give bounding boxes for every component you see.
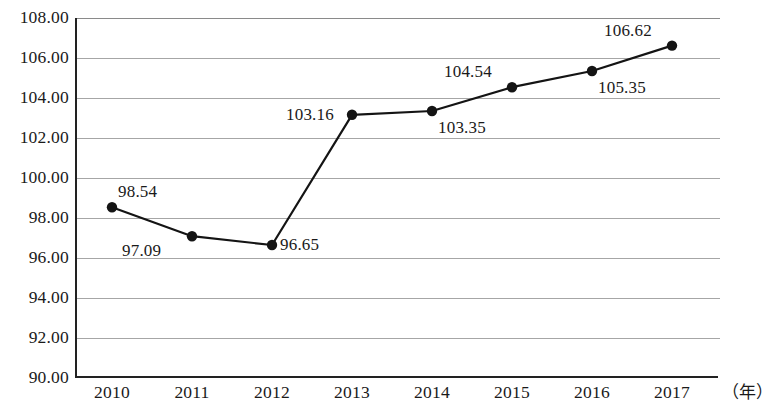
gridline <box>77 138 720 139</box>
x-axis-tick-label: 2016 <box>552 384 632 402</box>
y-axis-tick-label: 98.00 <box>5 209 69 227</box>
x-axis-tick-label: 2011 <box>152 384 232 402</box>
data-point-value-label: 106.62 <box>604 22 652 39</box>
data-point-value-label: 103.16 <box>286 106 334 123</box>
y-axis-tick-label: 100.00 <box>5 169 69 187</box>
x-axis-tick-label: 2014 <box>392 384 472 402</box>
y-axis-tick-label: 92.00 <box>5 329 69 347</box>
x-axis-tick-label: 2017 <box>632 384 712 402</box>
x-axis-tick-label: 2015 <box>472 384 552 402</box>
data-point-value-label: 103.35 <box>438 119 486 136</box>
x-axis-tick-label: 2010 <box>72 384 152 402</box>
gridline <box>77 218 720 219</box>
line-chart: 108.00106.00104.00102.00100.0098.0096.00… <box>0 0 771 408</box>
y-axis-tick-label: 106.00 <box>5 49 69 67</box>
y-axis-tick-label: 102.00 <box>5 129 69 147</box>
x-axis-unit-label: （年） <box>722 384 771 401</box>
y-axis-tick-label: 90.00 <box>5 369 69 387</box>
gridline <box>77 258 720 259</box>
x-axis-tick-label: 2013 <box>312 384 392 402</box>
data-point-value-label: 96.65 <box>280 236 319 253</box>
y-axis-tick-label: 96.00 <box>5 249 69 267</box>
y-axis-tick-label: 104.00 <box>5 89 69 107</box>
data-point-value-label: 105.35 <box>598 79 646 96</box>
gridline <box>77 338 720 339</box>
data-point-value-label: 104.54 <box>444 63 492 80</box>
gridline <box>77 178 720 179</box>
y-axis-tick-label: 108.00 <box>5 9 69 27</box>
x-axis-tick-label: 2012 <box>232 384 312 402</box>
gridline <box>77 58 720 59</box>
gridline <box>77 98 720 99</box>
data-point-value-label: 98.54 <box>118 183 157 200</box>
y-axis-tick-label: 94.00 <box>5 289 69 307</box>
gridline <box>77 298 720 299</box>
plot-area <box>75 18 718 378</box>
gridline <box>77 18 720 19</box>
data-point-value-label: 97.09 <box>122 242 161 259</box>
